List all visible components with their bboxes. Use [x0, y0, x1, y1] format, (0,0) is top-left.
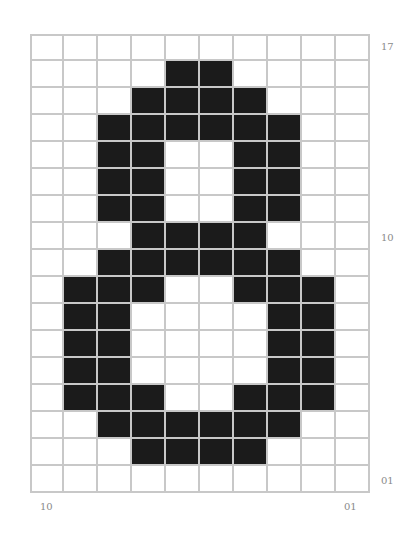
empty-cell	[64, 34, 98, 61]
filled-cell	[98, 196, 132, 223]
empty-cell	[200, 331, 234, 358]
empty-cell	[30, 466, 64, 493]
filled-cell	[132, 196, 166, 223]
empty-cell	[336, 439, 370, 466]
empty-cell	[98, 61, 132, 88]
filled-cell	[166, 412, 200, 439]
empty-cell	[64, 142, 98, 169]
empty-cell	[268, 61, 302, 88]
filled-cell	[166, 439, 200, 466]
filled-cell	[268, 277, 302, 304]
filled-cell	[268, 196, 302, 223]
filled-cell	[98, 385, 132, 412]
empty-cell	[268, 34, 302, 61]
empty-cell	[30, 88, 64, 115]
filled-cell	[64, 304, 98, 331]
empty-cell	[336, 466, 370, 493]
filled-cell	[200, 115, 234, 142]
filled-cell	[268, 331, 302, 358]
empty-cell	[98, 34, 132, 61]
empty-cell	[336, 142, 370, 169]
empty-cell	[30, 223, 64, 250]
empty-cell	[234, 331, 268, 358]
pixel-grid	[30, 34, 370, 493]
filled-cell	[302, 277, 336, 304]
empty-cell	[302, 34, 336, 61]
filled-cell	[98, 358, 132, 385]
empty-cell	[30, 412, 64, 439]
filled-cell	[98, 142, 132, 169]
empty-cell	[336, 34, 370, 61]
empty-cell	[64, 223, 98, 250]
filled-cell	[234, 88, 268, 115]
filled-cell	[200, 439, 234, 466]
empty-cell	[302, 169, 336, 196]
filled-cell	[234, 223, 268, 250]
empty-cell	[64, 250, 98, 277]
empty-cell	[268, 223, 302, 250]
empty-cell	[166, 277, 200, 304]
empty-cell	[30, 196, 64, 223]
empty-cell	[200, 385, 234, 412]
empty-cell	[64, 88, 98, 115]
filled-cell	[64, 358, 98, 385]
empty-cell	[98, 88, 132, 115]
empty-cell	[336, 169, 370, 196]
empty-cell	[98, 466, 132, 493]
empty-cell	[200, 142, 234, 169]
filled-cell	[268, 412, 302, 439]
empty-cell	[30, 61, 64, 88]
empty-cell	[30, 331, 64, 358]
filled-cell	[268, 142, 302, 169]
empty-cell	[30, 34, 64, 61]
filled-cell	[200, 88, 234, 115]
filled-cell	[200, 61, 234, 88]
empty-cell	[132, 304, 166, 331]
filled-cell	[268, 169, 302, 196]
empty-cell	[336, 223, 370, 250]
filled-cell	[98, 277, 132, 304]
empty-cell	[234, 61, 268, 88]
filled-cell	[234, 115, 268, 142]
empty-cell	[30, 142, 64, 169]
filled-cell	[132, 385, 166, 412]
filled-cell	[132, 412, 166, 439]
empty-cell	[64, 196, 98, 223]
filled-cell	[268, 250, 302, 277]
empty-cell	[336, 358, 370, 385]
empty-cell	[200, 304, 234, 331]
empty-cell	[302, 142, 336, 169]
empty-cell	[268, 88, 302, 115]
empty-cell	[200, 196, 234, 223]
empty-cell	[166, 196, 200, 223]
row-label-top: 17	[381, 42, 394, 52]
filled-cell	[234, 277, 268, 304]
empty-cell	[30, 277, 64, 304]
empty-cell	[30, 358, 64, 385]
filled-cell	[234, 142, 268, 169]
empty-cell	[336, 196, 370, 223]
empty-cell	[132, 34, 166, 61]
empty-cell	[302, 61, 336, 88]
empty-cell	[132, 358, 166, 385]
empty-cell	[166, 142, 200, 169]
empty-cell	[268, 439, 302, 466]
empty-cell	[30, 115, 64, 142]
empty-cell	[336, 250, 370, 277]
filled-cell	[64, 277, 98, 304]
filled-cell	[200, 250, 234, 277]
empty-cell	[200, 358, 234, 385]
row-label-bottom: 01	[381, 476, 394, 486]
filled-cell	[64, 385, 98, 412]
empty-cell	[132, 61, 166, 88]
filled-cell	[98, 115, 132, 142]
empty-cell	[302, 115, 336, 142]
filled-cell	[98, 304, 132, 331]
filled-cell	[132, 142, 166, 169]
empty-cell	[30, 250, 64, 277]
col-label-left: 10	[40, 502, 53, 512]
empty-cell	[166, 304, 200, 331]
empty-cell	[336, 61, 370, 88]
empty-cell	[336, 304, 370, 331]
filled-cell	[98, 412, 132, 439]
